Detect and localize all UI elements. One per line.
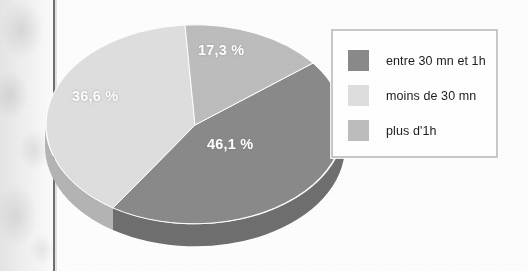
legend-swatch-icon [348, 120, 369, 141]
legend-item-label: entre 30 mn et 1h [386, 54, 486, 68]
legend-item-label: moins de 30 mn [386, 89, 476, 103]
legend-item-plus-d-1h[interactable]: plus d'1h [348, 113, 496, 148]
pie-chart-page: 46,1 % 36,6 % 17,3 % entre 30 mn et 1h m… [0, 0, 528, 271]
pie-slice-value-label: 46,1 % [207, 136, 253, 152]
pie-slice-value-label: 36,6 % [72, 88, 118, 104]
legend-item-entre-30-mn-et-1h[interactable]: entre 30 mn et 1h [348, 43, 496, 78]
legend-list: entre 30 mn et 1h moins de 30 mn plus d'… [333, 31, 496, 156]
legend-item-moins-de-30-mn[interactable]: moins de 30 mn [348, 78, 496, 113]
legend-swatch-icon [348, 85, 369, 106]
chart-legend: entre 30 mn et 1h moins de 30 mn plus d'… [331, 29, 498, 158]
legend-item-label: plus d'1h [386, 124, 437, 138]
legend-swatch-icon [348, 50, 369, 71]
pie-top-face [46, 25, 344, 224]
pie-slice-value-label: 17,3 % [198, 42, 244, 58]
